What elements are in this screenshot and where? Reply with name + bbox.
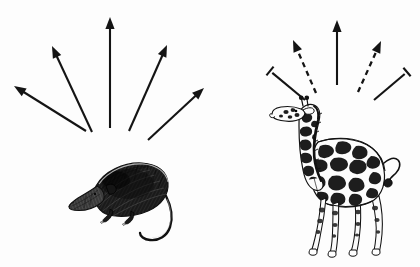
figure-container xyxy=(0,0,420,267)
giraffe-hooves-back xyxy=(349,249,380,256)
shrew-ray-group xyxy=(14,17,204,140)
giraffe-head xyxy=(272,107,305,122)
shrew-eye xyxy=(94,193,96,195)
giraffe-eye xyxy=(295,110,298,113)
giraffe-leg-spots xyxy=(316,206,381,238)
ray-R1-blocked-line xyxy=(266,67,305,100)
giraffe-illustration xyxy=(270,96,400,257)
giraffe-panel xyxy=(266,20,410,257)
ray-L3-solid-arrow xyxy=(105,17,114,128)
giraffe-tail-tuft xyxy=(384,179,392,187)
ray-R5-blocked-line xyxy=(374,68,411,100)
ray-R4-dashed-arrow xyxy=(358,41,381,92)
giraffe-ray-group xyxy=(266,20,410,100)
ray-L5-solid-arrow xyxy=(148,88,204,140)
ray-L4-solid-arrow xyxy=(129,45,167,131)
diagram-canvas xyxy=(0,0,420,267)
giraffe-tail xyxy=(384,158,400,181)
shrew-panel xyxy=(14,17,204,240)
ray-R3-solid-arrow xyxy=(332,20,341,85)
shrew-illustration xyxy=(69,163,171,240)
ray-L2-solid-arrow xyxy=(52,46,92,132)
ray-R2-dashed-arrow xyxy=(293,40,316,93)
ray-L1-solid-arrow xyxy=(14,86,86,131)
